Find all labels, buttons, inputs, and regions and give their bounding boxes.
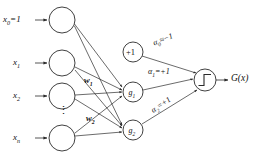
input-entry-arrows xyxy=(35,20,47,138)
network-graph-canvas xyxy=(0,0,262,162)
edge-g1-output xyxy=(143,79,193,90)
output-node xyxy=(194,69,216,91)
input-label-x2: x2 xyxy=(13,91,20,102)
vertical-ellipsis: ⋮ xyxy=(58,105,69,116)
edge-x2-g2 xyxy=(75,99,122,128)
output-label-gx: G(x) xyxy=(231,74,248,84)
edge-x2-g1 xyxy=(75,92,122,95)
input-label-x1: x1 xyxy=(13,58,20,69)
input-nodes xyxy=(49,7,75,151)
hidden-node-label-g1: g1 xyxy=(129,89,136,99)
input-label-xn: xn xyxy=(13,133,20,144)
bias-node-label: +1 xyxy=(126,48,135,57)
output-node-circle xyxy=(194,69,216,91)
alpha-label-1: α1=+1 xyxy=(148,68,170,78)
input-node-x0 xyxy=(49,7,75,33)
hidden-node-label-g2: g2 xyxy=(129,127,136,137)
edge-xn-g2 xyxy=(75,132,122,136)
edge-x0-g2 xyxy=(75,26,123,125)
input-node-x1 xyxy=(49,50,75,76)
input-label-x0: x0=1 xyxy=(3,15,21,26)
weight-label-w1: w1 xyxy=(84,76,93,87)
edge-xn-g1 xyxy=(75,96,122,133)
weight-label-w2: w2 xyxy=(86,114,95,125)
neural-network-figure: x0=1 x1 x2 xn ⋮ +1 g1 g2 w1 w2 α0≈−1 α1=… xyxy=(0,0,262,162)
input-to-hidden-edges xyxy=(75,24,123,136)
input-node-xn xyxy=(49,125,75,151)
